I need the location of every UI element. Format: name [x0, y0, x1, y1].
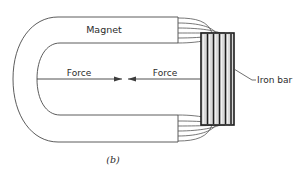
iron-bar-label: Iron bar [257, 75, 292, 85]
magnet-outer-outline [13, 17, 178, 142]
force-arrowhead-left-pointing [128, 76, 136, 81]
figure-container: Magnet Force Force Iron bar (b) [0, 0, 296, 180]
field-line-bottom-2 [178, 125, 216, 136]
force-arrowhead-right-pointing [114, 76, 122, 81]
magnet-iron-bar-diagram: Magnet Force Force Iron bar (b) [0, 0, 296, 180]
force-label-left: Force [67, 68, 92, 78]
field-line-top-1 [178, 18, 212, 33]
magnet-label: Magnet [86, 24, 122, 35]
figure-caption: (b) [106, 154, 120, 165]
iron-bar-leader-line [234, 69, 252, 80]
force-label-right: Force [153, 68, 178, 78]
iron-bar-shape [201, 33, 234, 125]
iron-bar-body [201, 33, 234, 125]
field-line-bottom-1 [178, 125, 212, 141]
